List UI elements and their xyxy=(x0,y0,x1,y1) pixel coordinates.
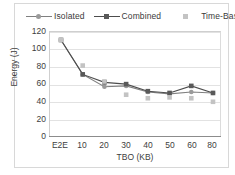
y-tick-label: 100 xyxy=(20,44,46,53)
y-axis-label: Energy (J) xyxy=(9,37,19,97)
data-point xyxy=(189,90,194,95)
y-tick-label: 60 xyxy=(20,79,46,88)
data-point xyxy=(146,96,151,101)
y-tick-label: 0 xyxy=(20,132,46,141)
data-point xyxy=(102,79,107,84)
data-point xyxy=(80,72,85,77)
data-point xyxy=(211,99,216,104)
legend-item-combined: Combined xyxy=(94,9,162,23)
legend-item-isolated: Isolated xyxy=(26,9,85,23)
data-point xyxy=(146,89,151,94)
x-tick-label: 80 xyxy=(199,140,225,150)
data-point xyxy=(211,91,216,96)
legend-marker-time-based-icon xyxy=(173,11,199,22)
data-point xyxy=(59,38,64,43)
legend-item-time-based: Time-Based xyxy=(173,9,235,23)
y-axis-ticks: 120 100 80 60 40 20 0 xyxy=(18,31,46,137)
legend-label-isolated: Isolated xyxy=(54,11,85,21)
x-axis-label: TBO (KB) xyxy=(49,152,221,162)
data-point xyxy=(189,96,194,101)
data-point xyxy=(124,82,129,87)
legend-label-combined: Combined xyxy=(122,11,162,21)
chart-figure: Isolated Combined Time-Based 120 100 80 … xyxy=(0,0,235,175)
data-point xyxy=(167,91,172,96)
legend-label-time-based: Time-Based xyxy=(201,11,235,21)
y-tick-label: 40 xyxy=(20,97,46,106)
data-point xyxy=(189,84,194,89)
legend-marker-isolated-icon xyxy=(26,11,52,22)
x-axis-line xyxy=(49,136,221,137)
data-point xyxy=(102,84,107,89)
y-tick-label: 120 xyxy=(20,27,46,36)
data-point xyxy=(80,63,85,68)
y-tick-label: 80 xyxy=(20,62,46,71)
legend-marker-combined-icon xyxy=(94,11,120,22)
data-point xyxy=(167,95,172,100)
data-point xyxy=(124,92,129,97)
y-tick-label: 20 xyxy=(20,115,46,124)
plot-area xyxy=(49,31,221,137)
chart-legend: Isolated Combined Time-Based xyxy=(20,9,225,23)
x-axis-ticks: E2E 10 20 30 40 50 60 80 xyxy=(49,140,221,151)
series-layer xyxy=(50,32,222,138)
